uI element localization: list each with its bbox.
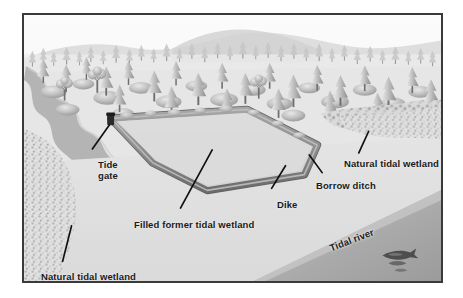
label-tide-gate-line1: Tide xyxy=(98,159,118,170)
label-tide-gate-line2: gate xyxy=(98,170,118,181)
tide-gate-icon xyxy=(106,113,115,126)
label-borrow-ditch: Borrow ditch xyxy=(316,180,376,191)
wetland-scene xyxy=(24,15,441,281)
label-natural-tidal-wetland-left: Natural tidal wetland xyxy=(41,271,136,282)
label-natural-tidal-wetland-right: Natural tidal wetland xyxy=(344,158,439,169)
figure-root: Tide gate Filled former tidal wetland Di… xyxy=(0,0,463,298)
label-tide-gate: Tide gate xyxy=(98,159,132,181)
illustration-frame: Tide gate Filled former tidal wetland Di… xyxy=(22,13,443,283)
label-dike: Dike xyxy=(277,199,297,210)
label-filled-former-tidal-wetland: Filled former tidal wetland xyxy=(134,219,254,230)
